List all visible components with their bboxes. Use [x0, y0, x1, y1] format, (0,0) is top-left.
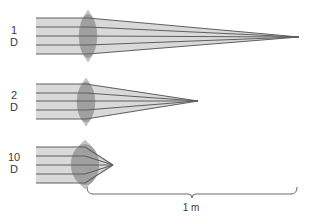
lens-system-1 — [36, 10, 299, 62]
lens-3-power-unit: D — [3, 163, 25, 175]
lens-system-3 — [36, 140, 113, 189]
lens-3-power-label: 10 D — [3, 151, 25, 175]
lens-2-power-label: 2 D — [3, 89, 25, 113]
lens-1-power-unit: D — [3, 36, 25, 48]
scale-label: 1 m — [171, 202, 211, 213]
scale-bracket — [87, 187, 297, 198]
lens-1-power-label: 1 D — [3, 24, 25, 48]
lens-system-2 — [36, 78, 198, 126]
lens-1-power-value: 1 — [3, 24, 25, 36]
lens-diagram — [0, 0, 313, 219]
lens-2-power-unit: D — [3, 101, 25, 113]
lens-body — [77, 82, 95, 122]
lens-2-power-value: 2 — [3, 89, 25, 101]
lens-3-power-value: 10 — [3, 151, 25, 163]
